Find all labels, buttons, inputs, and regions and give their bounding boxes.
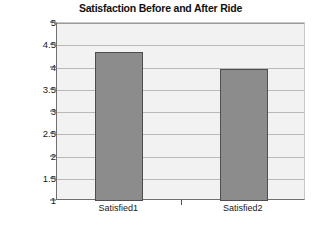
y-axis: 11.522.533.544.55	[0, 0, 56, 240]
x-tick-label: Satisfied1	[98, 203, 138, 213]
x-tick-mark	[181, 200, 182, 205]
bar-satisfied1	[95, 52, 143, 201]
plot-area	[56, 22, 305, 200]
x-tick-label: Satisfied2	[223, 203, 263, 213]
bar-satisfied2	[220, 69, 268, 201]
gridline	[57, 23, 304, 24]
bar-chart-figure: Satisfaction Before and After Ride 11.52…	[0, 0, 321, 240]
gridline	[57, 45, 304, 46]
